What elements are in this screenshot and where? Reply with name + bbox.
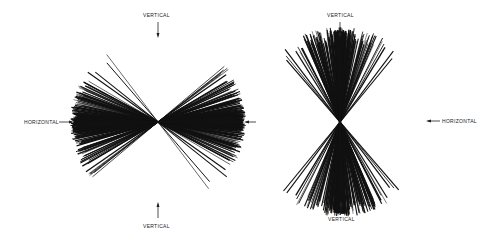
right-orientation-burst bbox=[284, 27, 399, 216]
left-bottom-arrow-icon bbox=[157, 202, 160, 218]
left-bottom-vertical-label: VERTICAL bbox=[143, 223, 170, 229]
left-top-arrow-icon bbox=[157, 22, 160, 38]
left-right-arrow-icon bbox=[244, 121, 256, 124]
orientation-diagram bbox=[0, 0, 500, 242]
right-horizontal-label: HORIZONTAL bbox=[442, 118, 477, 124]
right-top-vertical-label: VERTICAL bbox=[327, 12, 354, 18]
left-horizontal-label: HORIZONTAL bbox=[24, 119, 59, 125]
right-horizontal-arrow-icon bbox=[426, 120, 440, 123]
right-bottom-vertical-label: VERTICAL bbox=[328, 216, 355, 222]
left-orientation-burst bbox=[71, 55, 246, 189]
left-top-vertical-label: VERTICAL bbox=[143, 12, 170, 18]
